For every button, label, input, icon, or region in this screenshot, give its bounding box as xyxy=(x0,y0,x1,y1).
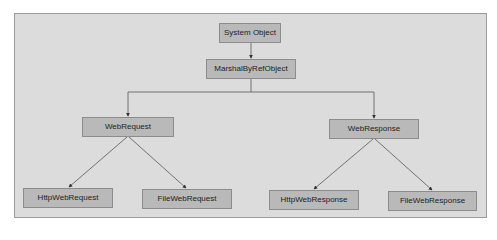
node-system-object: System Object xyxy=(219,23,281,43)
node-httpwebrequest: HttpWebRequest xyxy=(23,188,113,208)
node-marshalbyrefobject: MarshalByRefObject xyxy=(206,59,296,79)
node-filewebrequest: FileWebRequest xyxy=(142,189,232,209)
node-filewebresponse: FileWebResponse xyxy=(388,191,477,211)
node-httpwebresponse: HttpWebResponse xyxy=(269,190,359,210)
node-webresponse: WebResponse xyxy=(329,119,419,139)
node-webrequest: WebRequest xyxy=(82,117,174,137)
